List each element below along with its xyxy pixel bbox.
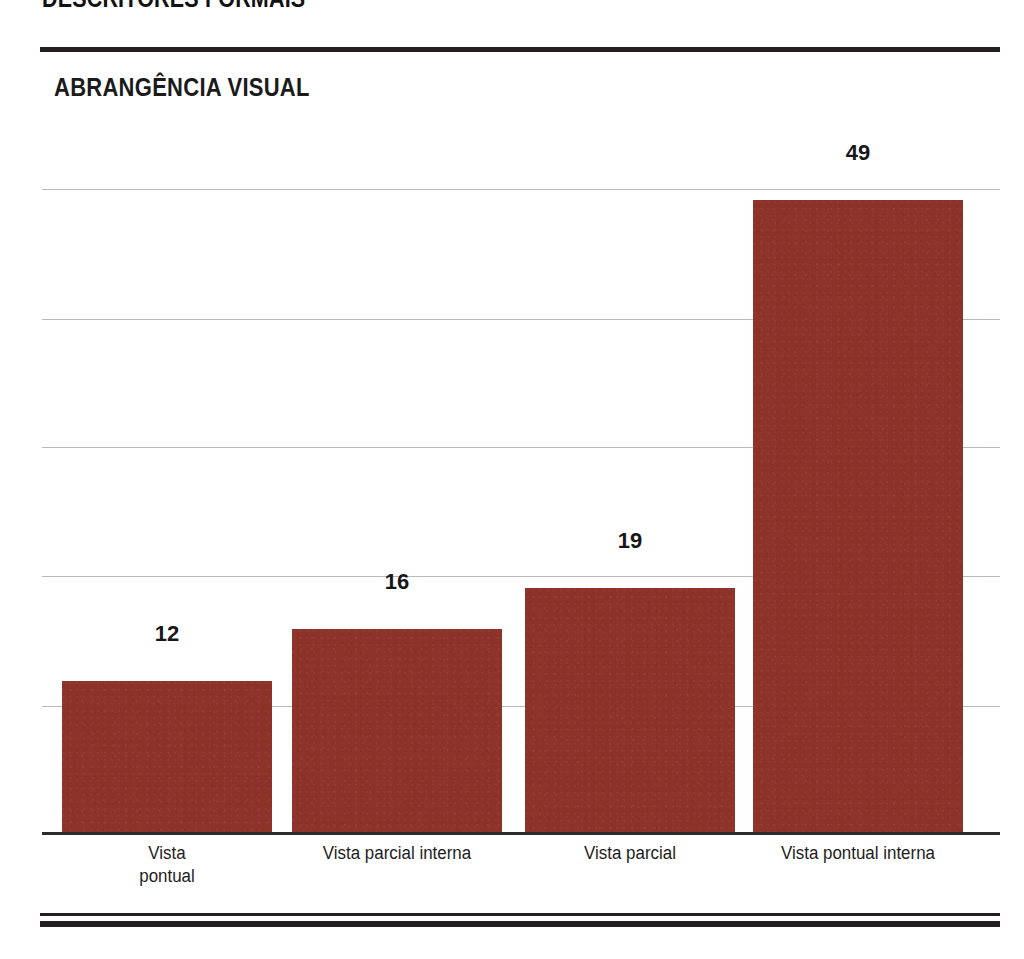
footer-rule-thin (40, 913, 1000, 916)
gridline-49 (42, 189, 1000, 190)
plot-area: 12 16 19 49 Vista pontual Vista parcial … (0, 0, 1024, 900)
bar-value-label-4: 49 (753, 140, 963, 166)
x-tick-label-4: Vista pontual interna (750, 842, 966, 865)
bar-vista-parcial-interna[interactable] (292, 629, 502, 833)
bar-value-label-1: 12 (62, 621, 272, 647)
bar-vista-parcial[interactable] (525, 588, 735, 833)
chart-page: DESCRITORES FORMAIS ABRANGÊNCIA VISUAL 1… (0, 0, 1024, 959)
x-tick-label-3: Vista parcial (522, 842, 738, 865)
bar-vista-pontual[interactable] (62, 681, 272, 833)
footer-rule-thick (40, 921, 1000, 927)
bar-vista-pontual-interna[interactable] (753, 200, 963, 833)
x-tick-label-1: Vista pontual (59, 842, 275, 887)
bar-value-label-2: 16 (292, 569, 502, 595)
x-axis-line (42, 832, 1000, 835)
bar-value-label-3: 19 (525, 528, 735, 554)
x-tick-label-2: Vista parcial interna (289, 842, 505, 865)
